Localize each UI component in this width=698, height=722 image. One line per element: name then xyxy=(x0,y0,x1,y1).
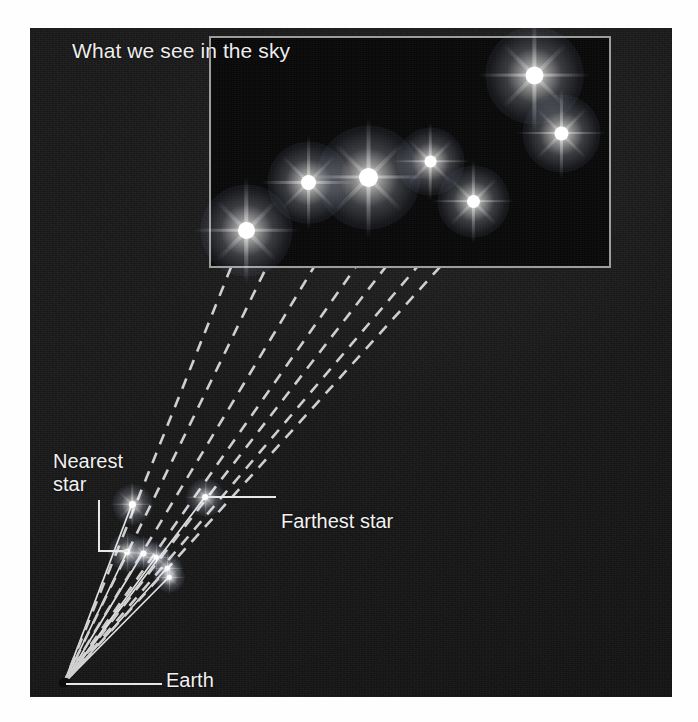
nearest-star-leader-horizontal xyxy=(98,550,128,552)
nearest-star-label: Nearest star xyxy=(53,450,123,496)
panel-title: What we see in the sky xyxy=(72,39,290,63)
star-spike-d2 xyxy=(146,547,166,567)
star-spike-v xyxy=(126,530,127,574)
star-spike-h xyxy=(150,567,185,568)
star-glow xyxy=(152,553,182,583)
overlay-layer: What we see in the sky Nearest star Fart… xyxy=(30,28,672,697)
star-spike-v xyxy=(155,540,156,575)
star-spike-d1 xyxy=(159,567,179,587)
star-core xyxy=(164,565,170,571)
real-star xyxy=(205,497,206,498)
real-star xyxy=(132,504,133,505)
star-glow xyxy=(127,537,159,569)
star-spike-h xyxy=(109,503,155,505)
star-glow xyxy=(108,533,146,571)
star-spike-v xyxy=(204,475,205,519)
star-glow xyxy=(154,562,184,592)
star-core xyxy=(153,554,159,560)
star-core xyxy=(140,550,146,556)
star-spike-d2 xyxy=(157,558,177,578)
star-core xyxy=(128,500,135,507)
star-spike-d2 xyxy=(114,539,139,564)
figure-page: What we see in the sky Nearest star Fart… xyxy=(0,0,698,722)
star-spike-d1 xyxy=(157,558,177,578)
star-core xyxy=(166,574,172,580)
panel-grain-texture xyxy=(211,38,609,266)
real-star xyxy=(167,568,168,569)
real-star xyxy=(156,557,157,558)
earth-leader xyxy=(66,683,162,685)
star-spike-h xyxy=(152,576,187,577)
star-spike-h xyxy=(139,556,174,557)
farthest-star-leader xyxy=(208,496,276,498)
nearest-star-leader-vertical xyxy=(98,500,100,552)
star-spike-v xyxy=(142,535,143,572)
real-star xyxy=(169,577,170,578)
farthest-star-label: Farthest star xyxy=(281,510,393,533)
real-star xyxy=(143,553,144,554)
star-spike-d2 xyxy=(132,542,153,563)
star-glow xyxy=(141,542,171,572)
star-spike-h xyxy=(125,552,162,553)
earth-label: Earth xyxy=(166,669,214,692)
night-sky-canvas: What we see in the sky Nearest star Fart… xyxy=(30,28,672,697)
star-spike-v xyxy=(168,560,169,595)
star-spike-d1 xyxy=(114,539,139,564)
star-spike-d2 xyxy=(159,567,179,587)
star-spike-v xyxy=(166,551,167,586)
star-spike-d1 xyxy=(132,542,153,563)
star-spike-d1 xyxy=(146,547,166,567)
star-spike-v xyxy=(131,481,133,527)
what-we-see-panel xyxy=(209,36,611,268)
